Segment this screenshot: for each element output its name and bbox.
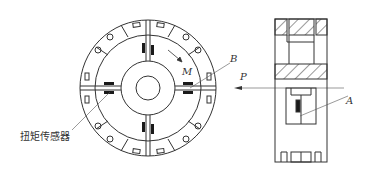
label-M: M: [181, 66, 193, 77]
hatched-band: [275, 64, 327, 79]
inner-rim: [95, 35, 201, 141]
front-view: [80, 20, 216, 156]
sensor-bottom: [142, 122, 145, 132]
center-bore: [136, 76, 160, 100]
torque-sensors: [104, 43, 193, 134]
side-outline: [275, 19, 327, 162]
leader-A: [300, 96, 348, 116]
label-A: A: [345, 95, 353, 106]
label-torque-sensor: 扭矩传感器: [20, 130, 70, 142]
label-B: B: [229, 53, 237, 64]
side-view: [275, 19, 327, 162]
spokes: [80, 20, 216, 156]
sensor-top: [142, 43, 145, 53]
rotation-arrow-M: [168, 50, 182, 62]
sensor-A: [296, 100, 300, 112]
label-P: P: [239, 71, 247, 82]
torque-sensor-wheel-diagram: M B 扭矩传感器 P A: [0, 0, 368, 171]
leader-B: [190, 63, 230, 88]
rim-slots: [85, 22, 211, 153]
rim-segment-dividers: [96, 25, 200, 151]
sensor-right: [183, 82, 193, 85]
outer-rim: [80, 20, 216, 156]
sensor-left: [104, 82, 114, 85]
hub: [121, 61, 175, 115]
